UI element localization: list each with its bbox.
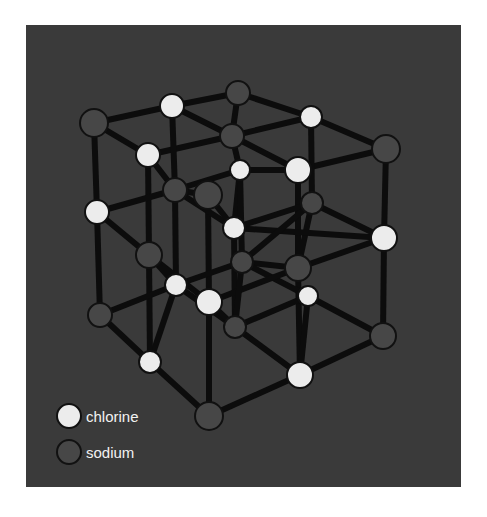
chlorine-atom — [139, 351, 161, 373]
sodium-atom — [224, 316, 246, 338]
sodium-atom — [220, 124, 244, 148]
sodium-atom — [301, 192, 323, 214]
bond-line — [97, 212, 100, 315]
sodium-atom — [285, 255, 311, 281]
sodium-atom — [136, 242, 162, 268]
sodium-atom — [195, 402, 223, 430]
bond-line — [311, 117, 312, 203]
chlorine-atom — [298, 286, 318, 306]
legend-label-chlorine: chlorine — [86, 408, 139, 425]
chlorine-atom — [85, 200, 109, 224]
chlorine-atom — [136, 143, 160, 167]
chlorine-atom — [285, 157, 311, 183]
chlorine-atom — [371, 225, 397, 251]
sodium-swatch-icon — [56, 439, 82, 465]
chlorine-swatch-icon — [56, 403, 82, 429]
sodium-atom — [88, 303, 112, 327]
chlorine-atom — [223, 217, 245, 239]
legend-item-sodium: sodium — [56, 434, 139, 470]
bond-line — [148, 155, 149, 255]
chlorine-atom — [300, 106, 322, 128]
legend-label-sodium: sodium — [86, 444, 134, 461]
sodium-atom — [372, 135, 400, 163]
chlorine-atom — [196, 289, 222, 315]
chlorine-atom — [230, 160, 250, 180]
chlorine-atom — [165, 274, 187, 296]
sodium-atom — [226, 81, 250, 105]
legend: chlorine sodium — [56, 398, 139, 470]
sodium-atom — [194, 181, 222, 209]
chlorine-atom — [160, 94, 184, 118]
bond-line — [175, 190, 176, 285]
sodium-atom — [163, 178, 187, 202]
chlorine-atom — [287, 362, 313, 388]
sodium-atom — [231, 251, 253, 273]
sodium-atom — [80, 109, 108, 137]
bond-line — [240, 170, 242, 262]
sodium-atom — [370, 323, 396, 349]
bond-line — [383, 238, 384, 336]
legend-item-chlorine: chlorine — [56, 398, 139, 434]
bond-line — [149, 255, 150, 362]
